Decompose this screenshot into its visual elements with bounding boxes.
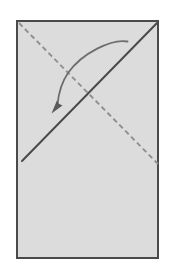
fold-diagram-container: Origami fold step diagram [0,0,175,277]
fold-diagram: Origami fold step diagram [0,0,175,277]
paper-sheet [17,21,158,258]
